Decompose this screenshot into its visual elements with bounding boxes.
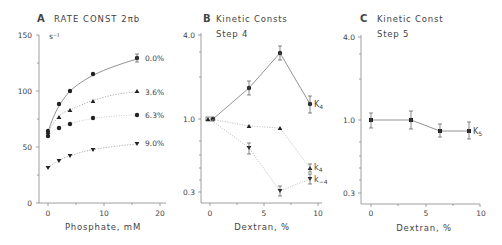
series-line-9pct	[48, 144, 137, 168]
panel-c-letter: C	[360, 13, 367, 24]
series-line-k-4	[210, 119, 310, 191]
panel-b: B Kinetic Consts Step 4 0.3 1.0 4.0 0 5 …	[183, 13, 328, 232]
panel-a-xtick: 10	[99, 209, 109, 218]
panel-b-xtick: 5	[262, 209, 267, 218]
panel-b-xtick: 0	[208, 209, 213, 218]
panel-a-ytick: 150	[18, 31, 33, 40]
panel-b-subtitle: Step 4	[216, 29, 248, 39]
panel-a-title: RATE CONST 2πb	[54, 14, 140, 24]
label-k-4: k−4	[314, 175, 328, 185]
panel-a: A RATE CONST 2πb s⁻¹ 0 50 100 150 0 10 2…	[18, 13, 166, 232]
series-label: 6.3%	[145, 111, 164, 120]
panel-c-ytick: 1.0	[343, 116, 355, 125]
panel-b-ytick: 0.3	[183, 188, 195, 197]
panel-b-xlabel: Dextran, %	[234, 222, 290, 232]
panel-c-xtick: 0	[369, 209, 374, 218]
panel-c-subtitle: Step 5	[377, 29, 409, 39]
label-K4: K4	[314, 100, 323, 110]
series-line-K4	[210, 53, 310, 119]
panel-b-ytick: 1.0	[183, 115, 195, 124]
series-line-3-6pct	[48, 92, 137, 133]
panel-c: C Kinetic Const Step 5 0.3 1.0 4.0 0 5 1…	[343, 13, 486, 233]
panel-c-ytick: 0.3	[343, 189, 355, 198]
panel-c-title: Kinetic Const	[377, 14, 443, 24]
series-line-0pct	[48, 59, 137, 132]
panel-b-ytick: 4.0	[183, 31, 195, 40]
panel-a-xlabel: Phosphate, mM	[65, 222, 141, 232]
label-K5: K5	[473, 127, 482, 137]
panel-a-ytick: 100	[18, 87, 33, 96]
panel-a-xtick: 20	[155, 209, 165, 218]
label-k4: k4	[314, 163, 323, 173]
panel-a-xtick: 0	[46, 209, 51, 218]
series-label: 9.0%	[145, 139, 164, 148]
series-markers-K4	[211, 51, 312, 121]
series-label: 0.0%	[145, 54, 164, 63]
panel-a-letter: A	[37, 13, 45, 24]
series-line-k4	[210, 119, 310, 168]
panel-b-letter: B	[203, 13, 211, 24]
series-label: 3.6%	[145, 88, 164, 97]
panel-c-ytick: 4.0	[343, 33, 355, 42]
panel-c-xtick: 5	[424, 209, 429, 218]
panel-a-unit: s⁻¹	[49, 32, 60, 41]
figure: A RATE CONST 2πb s⁻¹ 0 50 100 150 0 10 2…	[0, 0, 502, 245]
panel-c-xlabel: Dextran, %	[396, 223, 452, 233]
series-markers-9pct	[46, 142, 140, 170]
panel-a-ytick: 50	[22, 143, 32, 152]
series-line-K5	[371, 120, 469, 131]
panel-c-xtick: 10	[476, 209, 486, 218]
panel-a-ytick: 0	[27, 199, 32, 208]
panel-b-xtick: 10	[313, 209, 323, 218]
series-markers-0pct	[46, 56, 139, 133]
panel-b-title: Kinetic Consts	[216, 14, 288, 24]
